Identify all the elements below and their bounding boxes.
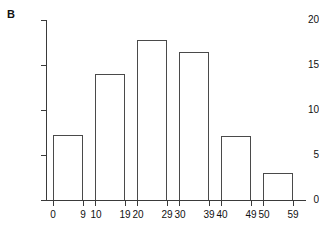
panel-label: B bbox=[7, 8, 15, 20]
x-tick-label: 59 bbox=[281, 209, 305, 220]
x-tick-mark bbox=[209, 201, 210, 206]
x-tick-mark bbox=[95, 201, 96, 206]
x-tick-mark bbox=[293, 201, 294, 206]
x-tick-mark bbox=[263, 201, 264, 206]
y-tick-mark bbox=[41, 20, 46, 21]
x-tick-mark bbox=[125, 201, 126, 206]
bar-10-19 bbox=[95, 74, 125, 200]
x-tick-mark bbox=[167, 201, 168, 206]
y-tick-label: 20 bbox=[285, 15, 319, 25]
y-tick-mark bbox=[41, 110, 46, 111]
x-tick-label: 10 bbox=[84, 209, 108, 220]
y-tick-label: 5 bbox=[285, 150, 319, 160]
y-tick-label: 10 bbox=[285, 105, 319, 115]
x-tick-mark bbox=[179, 201, 180, 206]
x-tick-mark bbox=[251, 201, 252, 206]
bar-30-39 bbox=[179, 52, 209, 200]
y-tick-label: 15 bbox=[285, 60, 319, 70]
bar-20-29 bbox=[137, 40, 167, 200]
bar-0-9 bbox=[53, 135, 83, 200]
x-tick-mark bbox=[221, 201, 222, 206]
bar-50-59 bbox=[263, 173, 293, 200]
y-tick-mark bbox=[41, 200, 46, 201]
x-tick-label: 50 bbox=[252, 209, 276, 220]
x-tick-label: 20 bbox=[126, 209, 150, 220]
x-tick-label: 40 bbox=[210, 209, 234, 220]
bar-40-49 bbox=[221, 136, 251, 200]
chart-figure: B 0 5 10 15 20 0 9 10 19 20 29 30 39 40 … bbox=[0, 0, 319, 233]
y-tick-mark bbox=[41, 155, 46, 156]
x-tick-label: 0 bbox=[41, 209, 65, 220]
y-tick-mark bbox=[41, 65, 46, 66]
x-axis-line bbox=[46, 200, 306, 201]
x-tick-label: 30 bbox=[168, 209, 192, 220]
x-tick-mark bbox=[137, 201, 138, 206]
y-axis-line bbox=[46, 20, 47, 201]
x-tick-mark bbox=[83, 201, 84, 206]
x-tick-mark bbox=[53, 201, 54, 206]
